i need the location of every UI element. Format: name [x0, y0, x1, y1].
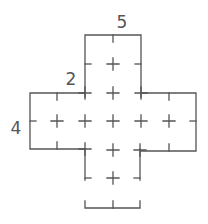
label-upper-left-step: 2 [66, 69, 77, 89]
label-top-width: 5 [117, 12, 128, 32]
cross-grid-diagram: 5 2 4 [0, 0, 208, 224]
label-left-height: 4 [11, 118, 22, 138]
